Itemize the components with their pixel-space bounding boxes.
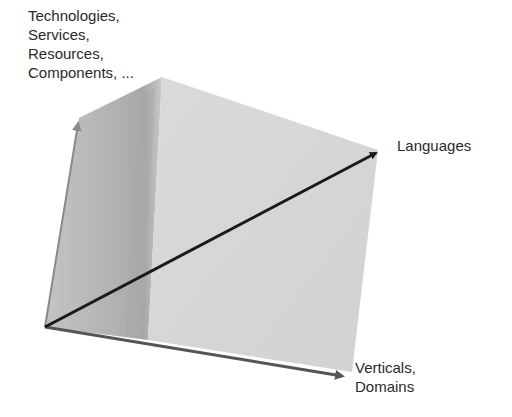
diagonal-axis-label: Languages bbox=[397, 136, 471, 155]
vertical-axis-label-line: Services, bbox=[28, 25, 134, 44]
horizontal-axis-label-line: Verticals, bbox=[355, 358, 416, 377]
horizontal-axis-label: Verticals, Domains bbox=[355, 358, 416, 396]
horizontal-axis-label-line: Domains bbox=[355, 377, 416, 396]
cube-diagram: Technologies, Services, Resources, Compo… bbox=[0, 0, 512, 417]
vertical-axis-label-line: Technologies, bbox=[28, 6, 134, 25]
vertical-axis-label-line: Resources, bbox=[28, 44, 134, 63]
diagonal-axis-label-line: Languages bbox=[397, 136, 471, 155]
cube-right-face bbox=[148, 77, 378, 372]
vertical-axis-label: Technologies, Services, Resources, Compo… bbox=[28, 6, 134, 82]
vertical-axis-label-line: Components, ... bbox=[28, 63, 134, 82]
